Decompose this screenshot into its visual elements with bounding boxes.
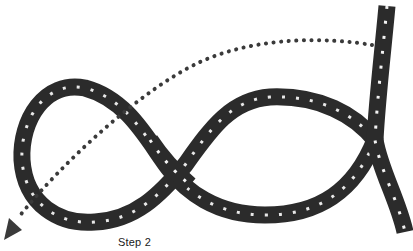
figure-caption: Step 2: [118, 236, 151, 248]
rope-standing-part: [375, 6, 405, 232]
rope-loop-lower: [22, 87, 375, 222]
arrowhead-icon: [4, 218, 22, 240]
rope: [22, 6, 405, 232]
